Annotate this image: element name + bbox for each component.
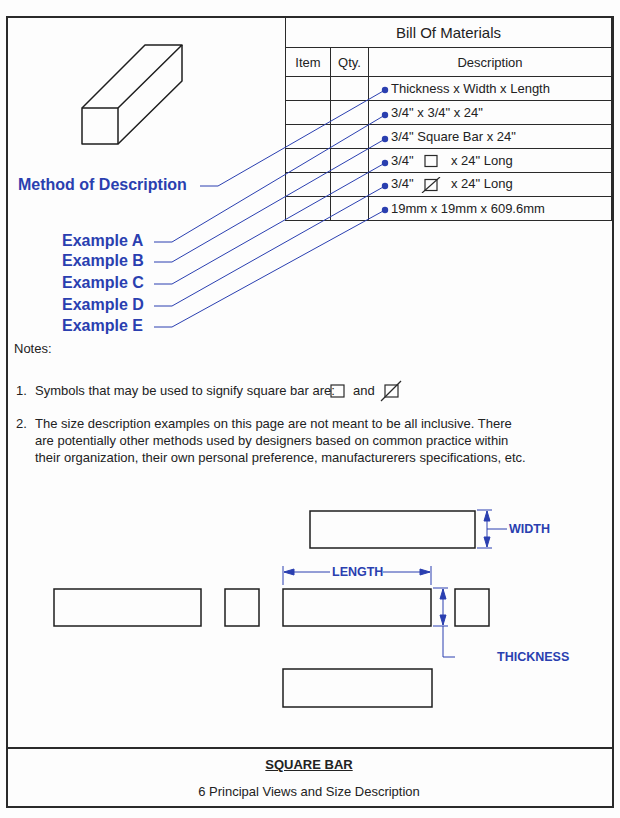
isometric-square-bar [82,45,182,144]
note-1-number: 1. [16,383,27,398]
bottom-view [283,669,432,707]
right-end-view [455,589,489,626]
example-a-label: Example A [62,232,143,250]
leader-dots [382,87,388,213]
left-long-view [54,589,201,626]
top-view [310,511,475,548]
thickness-label: THICKNESS [497,650,569,664]
notes-heading: Notes: [14,341,52,356]
note-2-line-3: their organization, their own personal p… [35,450,526,465]
left-end-view [225,589,259,626]
drawing-title: SQUARE BAR [6,757,612,772]
note-1-text: Symbols that may be used to signify squa… [35,383,335,398]
front-view [283,589,431,626]
note-2-line-2: are potentially other methods used by de… [35,433,508,448]
orthographic-views [54,511,489,707]
title-block: SQUARE BAR 6 Principal Views and Size De… [6,747,612,808]
square-slash-symbol-icon [381,381,401,401]
width-label: WIDTH [509,522,550,536]
note-1-and: and [353,383,375,398]
example-d-label: Example D [62,296,144,314]
example-e-label: Example E [62,317,143,335]
thickness-dimension [433,588,455,657]
example-b-label: Example B [62,252,144,270]
note-2-number: 2. [16,416,27,431]
method-of-description-label: Method of Description [18,176,187,194]
note-2-line-1: The size description examples on this pa… [35,416,512,431]
drawing-subtitle: 6 Principal Views and Size Description [6,784,612,799]
length-label: LENGTH [332,565,383,579]
example-c-label: Example C [62,274,144,292]
drawing-graphics [0,0,620,818]
leader-lines [154,90,385,327]
width-dimension [477,510,507,548]
